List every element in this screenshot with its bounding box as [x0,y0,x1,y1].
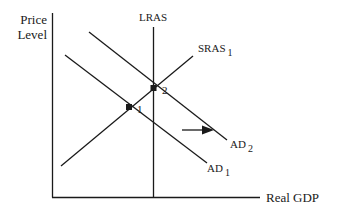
point-1-label: 1 [137,103,143,115]
ad1-curve [65,55,207,163]
x-axis-label: Real GDP [266,190,319,205]
ad1-label: AD1 [207,162,230,178]
ad2-label-subscript: 2 [248,143,253,154]
ad1-label-subscript: 1 [225,167,230,178]
point-2-label: 2 [162,84,168,96]
lras-label: LRAS [139,11,167,23]
sras1-label: SRAS1 [198,42,233,58]
ad1-label-main: AD [207,162,223,174]
ad-as-diagram: Price Level Real GDP LRAS SRAS1 AD1 AD2 … [0,0,343,211]
sras1-curve [61,56,193,166]
ad2-label-main: AD [230,138,246,150]
equilibrium-point-1 [126,104,132,110]
sras1-label-main: SRAS [198,42,226,54]
y-axis-label-line1: Price [20,12,47,27]
equilibrium-point-2 [151,85,157,91]
y-axis-label-line2: Level [17,27,47,42]
ad2-label: AD2 [230,138,253,154]
sras1-label-subscript: 1 [228,47,233,58]
